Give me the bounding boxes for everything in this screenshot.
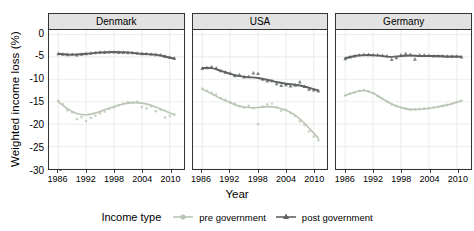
plot-svg-denmark xyxy=(49,30,184,169)
legend-item-pre-government[interactable]: pre government xyxy=(172,211,266,223)
y-tick-label: -10 xyxy=(14,73,44,84)
x-tick-label: 1998 xyxy=(391,174,411,184)
plot-area-usa xyxy=(192,29,329,170)
chart-legend: Income type pre government post governme… xyxy=(0,207,474,227)
x-axis-tick-labels: 19861992199820042010 1986199219982004201… xyxy=(48,170,472,188)
x-tick-label: 2004 xyxy=(132,174,152,184)
x-tick-label: 1998 xyxy=(248,174,268,184)
x-tick-label: 2010 xyxy=(304,174,324,184)
x-tick-mark xyxy=(373,170,374,173)
x-tick-mark xyxy=(258,170,259,173)
x-tick-label: 1986 xyxy=(335,174,355,184)
x-tick-mark xyxy=(430,170,431,173)
x-tick-mark xyxy=(86,170,87,173)
facet-strip-label-usa: USA xyxy=(192,13,329,29)
x-tick-label: 1992 xyxy=(76,174,96,184)
grid-lines xyxy=(49,30,184,169)
x-tick-mark xyxy=(345,170,346,173)
x-axis-title: Year xyxy=(0,188,474,200)
x-axis-cell-usa: 19861992199820042010 xyxy=(192,170,329,188)
data-points-pre-government xyxy=(201,87,320,141)
plot-svg-germany xyxy=(336,30,471,169)
y-tick-label: -25 xyxy=(14,142,44,153)
legend-item-post-government[interactable]: post government xyxy=(275,211,373,223)
x-tick-label: 2004 xyxy=(276,174,296,184)
y-tick-label: -15 xyxy=(14,96,44,107)
y-tick-label: -20 xyxy=(14,119,44,130)
x-tick-mark xyxy=(286,170,287,173)
x-tick-label: 2004 xyxy=(420,174,440,184)
legend-label-post-government: post government xyxy=(302,212,373,223)
trend-line-pre-government xyxy=(58,102,174,115)
x-tick-mark xyxy=(57,170,58,173)
x-tick-label: 1986 xyxy=(47,174,67,184)
grid-lines xyxy=(193,30,328,169)
plot-svg-usa xyxy=(193,30,328,169)
x-tick-mark xyxy=(142,170,143,173)
x-tick-label: 1998 xyxy=(104,174,124,184)
grid-lines xyxy=(336,30,471,169)
x-axis-cell-germany: 19861992199820042010 xyxy=(335,170,472,188)
y-tick-label: -5 xyxy=(14,50,44,61)
x-tick-label: 1986 xyxy=(191,174,211,184)
x-axis-cell-denmark: 19861992199820042010 xyxy=(48,170,185,188)
plot-area-germany xyxy=(335,29,472,170)
legend-key-svg-post xyxy=(275,211,297,223)
data-points-pre-government xyxy=(57,99,176,122)
trend-line-pre-government xyxy=(202,89,318,138)
facet-panel-row: Denmark USA Germany xyxy=(48,13,472,170)
legend-key-triangle-icon xyxy=(275,211,297,223)
x-tick-label: 1992 xyxy=(363,174,383,184)
facet-strip-label-denmark: Denmark xyxy=(48,13,185,29)
chart-figure: Weighted income loss (%) 0-5-10-15-20-25… xyxy=(0,0,474,231)
x-tick-mark xyxy=(314,170,315,173)
x-tick-mark xyxy=(114,170,115,173)
x-tick-label: 1992 xyxy=(219,174,239,184)
facet-panel-germany: Germany xyxy=(335,13,472,170)
legend-title: Income type xyxy=(101,211,161,223)
x-tick-mark xyxy=(171,170,172,173)
x-tick-mark xyxy=(401,170,402,173)
x-tick-mark xyxy=(229,170,230,173)
x-tick-mark xyxy=(458,170,459,173)
legend-key-svg-pre xyxy=(172,211,194,223)
trend-line-post-government xyxy=(58,52,174,59)
x-tick-mark xyxy=(201,170,202,173)
x-tick-label: 2010 xyxy=(448,174,468,184)
y-tick-label: 0 xyxy=(14,27,44,38)
x-tick-label: 2010 xyxy=(161,174,181,184)
facet-strip-label-germany: Germany xyxy=(335,13,472,29)
facet-panel-usa: USA xyxy=(192,13,329,170)
plot-area-denmark xyxy=(48,29,185,170)
legend-label-pre-government: pre government xyxy=(199,212,266,223)
legend-key-circle-icon xyxy=(172,211,194,223)
facet-panel-denmark: Denmark xyxy=(48,13,185,170)
y-tick-label: -30 xyxy=(14,165,44,176)
